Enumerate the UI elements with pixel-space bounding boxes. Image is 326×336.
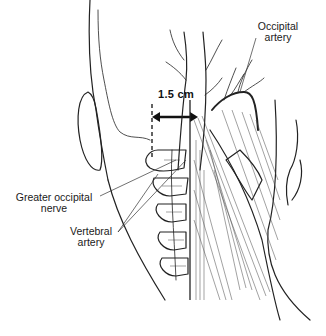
anatomical-illustration: Occipital artery 1.5 cm Greater occipita… [0,0,326,336]
head-neck-drawing [0,0,326,336]
occipital-artery-branches [212,60,264,130]
vertebral-artery-leader-1 [118,174,158,232]
neck-outline-right [268,100,310,320]
right-ear [292,160,302,200]
arrow-head-left-icon [152,112,160,122]
occipital-artery-label: Occipital artery [248,21,308,43]
greater-occipital-nerve-label: Greater occipital nerve [8,192,100,214]
cervical-spine [146,150,188,276]
head-outline-right [286,120,297,205]
measurement-label: 1.5 cm [158,88,194,100]
neck-muscles [190,100,280,320]
nerve-branches [166,30,222,170]
vertebral-artery-label-line2: artery [64,237,118,248]
left-ear [78,92,102,170]
vertebral-artery-label: Vertebral artery [64,226,118,248]
occipital-artery-label-line2: artery [248,32,308,43]
greater-occipital-nerve-label-line2: nerve [8,203,100,214]
lesser-occipital-nerve [98,10,150,140]
occipital-artery-leader [240,38,256,92]
